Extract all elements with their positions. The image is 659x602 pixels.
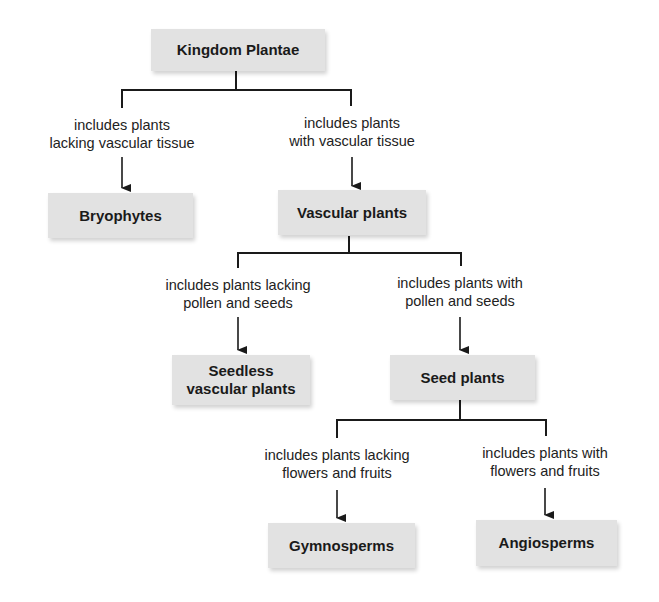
node-seedless-vascular-plants: Seedless vascular plants: [172, 355, 310, 405]
edge-label-line1: includes plants lacking: [165, 276, 310, 294]
edge-label-to-bryophytes: includes plants lacking vascular tissue: [49, 116, 194, 152]
node-kingdom-plantae: Kingdom Plantae: [151, 29, 325, 71]
edge-label-line2: pollen and seeds: [165, 294, 310, 312]
edge-label-line1: includes plants lacking: [264, 446, 409, 464]
edge-label-to-seedless: includes plants lacking pollen and seeds: [165, 276, 310, 312]
node-label: Angiosperms: [499, 534, 595, 552]
edge-label-to-seed: includes plants with pollen and seeds: [397, 274, 523, 310]
edge-label-line1: includes plants with: [397, 274, 523, 292]
node-label-line2: vascular plants: [186, 380, 295, 398]
branch-vascular: [238, 236, 461, 268]
node-label: Gymnosperms: [289, 537, 394, 555]
edge-label-line2: with vascular tissue: [289, 132, 415, 150]
edge-label-line2: lacking vascular tissue: [49, 134, 194, 152]
edge-label-line2: flowers and fruits: [264, 464, 409, 482]
edge-label-line2: flowers and fruits: [482, 462, 608, 480]
edge-label-to-angiosperms: includes plants with flowers and fruits: [482, 444, 608, 480]
edge-label-line1: includes plants: [289, 114, 415, 132]
node-label: Vascular plants: [297, 204, 407, 222]
node-gymnosperms: Gymnosperms: [268, 523, 415, 568]
node-label: Seed plants: [420, 369, 504, 387]
node-angiosperms: Angiosperms: [476, 520, 617, 566]
node-seed-plants: Seed plants: [390, 355, 535, 400]
edge-label-line2: pollen and seeds: [397, 292, 523, 310]
node-label: Bryophytes: [79, 207, 162, 225]
node-label-line1: Seedless: [208, 362, 273, 380]
node-bryophytes: Bryophytes: [48, 193, 193, 238]
edge-label-to-gymnosperms: includes plants lacking flowers and frui…: [264, 446, 409, 482]
branch-seed: [337, 400, 546, 438]
edge-label-line1: includes plants with: [482, 444, 608, 462]
edge-label-line1: includes plants: [49, 116, 194, 134]
node-label: Kingdom Plantae: [177, 41, 300, 59]
branch-kingdom: [122, 71, 351, 108]
node-vascular-plants: Vascular plants: [278, 190, 426, 235]
connector-lines: [0, 0, 659, 602]
edge-label-to-vascular: includes plants with vascular tissue: [289, 114, 415, 150]
